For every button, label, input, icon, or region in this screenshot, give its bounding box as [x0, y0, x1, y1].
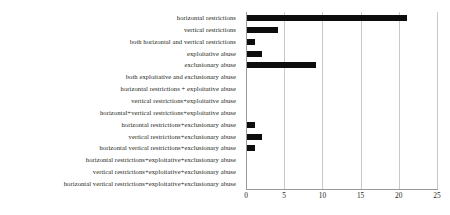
chart-row: vertical restrictions+exploitative abuse: [0, 95, 450, 107]
chart-row: horizontal restrictions + exploitative a…: [0, 83, 450, 95]
chart-row: vertical restrictions+exploitative+exclu…: [0, 166, 450, 178]
bar-chart: horizontal restrictionsvertical restrict…: [0, 0, 450, 215]
bar: [247, 51, 262, 57]
x-tick-label: 25: [433, 191, 440, 201]
x-tick-label: 15: [357, 191, 364, 201]
chart-rows: horizontal restrictionsvertical restrict…: [0, 12, 450, 190]
category-label: horizontal restrictions+exploitative+exc…: [0, 156, 236, 164]
bar-track: [247, 154, 438, 166]
bar-track: [247, 71, 438, 83]
category-label: horizontal restrictions+exclusionary abu…: [0, 121, 236, 129]
category-label: vertical restrictions+exclusionary abuse: [0, 133, 236, 141]
category-label: horizontal+vertical restrictions+exploit…: [0, 109, 236, 117]
x-axis-tick-labels: 0510152025: [246, 191, 437, 207]
category-label: horizontal vertical restrictions+exclusi…: [0, 144, 236, 152]
chart-row: horizontal restrictions: [0, 12, 450, 24]
x-tick-label: 10: [319, 191, 326, 201]
chart-row: horizontal vertical restrictions+exploit…: [0, 178, 450, 190]
x-tick-label: 0: [244, 191, 248, 201]
bar-track: [247, 178, 438, 190]
category-label: horizontal vertical restrictions+exploit…: [0, 180, 236, 188]
bar-track: [247, 12, 438, 24]
chart-row: exploitative abuse: [0, 48, 450, 60]
category-label: both exploitative and exclusionary abuse: [0, 73, 236, 81]
bar: [247, 27, 278, 33]
chart-row: horizontal restrictions+exclusionary abu…: [0, 119, 450, 131]
category-label: vertical restrictions+exploitative abuse: [0, 97, 236, 105]
bar-track: [247, 36, 438, 48]
category-label: horizontal restrictions: [0, 14, 236, 22]
bar-track: [247, 59, 438, 71]
bar-track: [247, 131, 438, 143]
category-label: vertical restrictions+exploitative+exclu…: [0, 168, 236, 176]
category-label: both horizontal and vertical restriction…: [0, 38, 236, 46]
bar-track: [247, 83, 438, 95]
bar-track: [247, 119, 438, 131]
bar-track: [247, 107, 438, 119]
chart-row: horizontal+vertical restrictions+exploit…: [0, 107, 450, 119]
bar: [247, 39, 255, 45]
bar: [247, 62, 316, 68]
bar: [247, 122, 255, 128]
chart-row: both horizontal and vertical restriction…: [0, 36, 450, 48]
bar: [247, 145, 255, 151]
bar-track: [247, 24, 438, 36]
bar-track: [247, 166, 438, 178]
bar-track: [247, 95, 438, 107]
chart-row: exclusionary abuse: [0, 59, 450, 71]
chart-row: horizontal vertical restrictions+exclusi…: [0, 142, 450, 154]
category-label: horizontal restrictions + exploitative a…: [0, 85, 236, 93]
bar-track: [247, 142, 438, 154]
bar: [247, 134, 262, 140]
x-tick-label: 5: [282, 191, 286, 201]
category-label: exploitative abuse: [0, 50, 236, 58]
category-label: vertical restrictions: [0, 26, 236, 34]
bar: [247, 15, 407, 21]
category-label: exclusionary abuse: [0, 61, 236, 69]
chart-row: both exploitative and exclusionary abuse: [0, 71, 450, 83]
bar-track: [247, 48, 438, 60]
chart-row: vertical restrictions+exclusionary abuse: [0, 131, 450, 143]
chart-row: horizontal restrictions+exploitative+exc…: [0, 154, 450, 166]
chart-row: vertical restrictions: [0, 24, 450, 36]
x-tick-label: 20: [395, 191, 402, 201]
